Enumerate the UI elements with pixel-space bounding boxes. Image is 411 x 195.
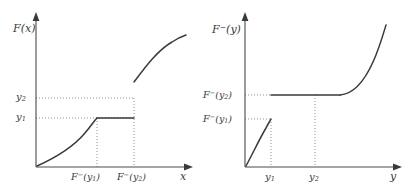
right-ytick-finv-y2-open: (y — [215, 89, 224, 100]
left-x-axis-title: x — [180, 170, 186, 183]
left-ytick-y2: y2 — [16, 91, 26, 102]
right-y-axis-title-base: F — [212, 23, 220, 36]
right-ytick-finv-y2-base: F — [203, 89, 210, 100]
right-plot-panel: F−(y) y F−(y2) F−(y1) y1 y2 — [200, 0, 411, 195]
left-y-axis-arrow-icon — [33, 12, 40, 21]
right-xtick-y1-sub: 1 — [271, 175, 275, 183]
left-curve-post-jump-branch — [134, 35, 186, 82]
left-xtick-finv-y2-close: ) — [142, 171, 146, 182]
left-ytick-y1-sub: 1 — [22, 115, 26, 123]
right-ytick-finv-y1-open: (y — [215, 113, 224, 124]
left-xtick-finv-y2-open: (y — [129, 171, 138, 182]
right-ytick-finv-y2-close: ) — [228, 89, 232, 100]
left-xtick-finv-y1-open: (y — [83, 171, 92, 182]
right-ytick-finv-y1: F−(y1) — [203, 113, 232, 124]
right-xtick-y1: y1 — [265, 171, 275, 182]
left-plot-panel: F(x) x y2 y1 F−(y1) F−(y2) — [0, 0, 206, 195]
figure-container: F(x) x y2 y1 F−(y1) F−(y2) F−(y) — [0, 0, 411, 195]
left-ytick-y2-sub: 2 — [22, 95, 26, 103]
right-ytick-finv-y2: F−(y2) — [203, 89, 232, 100]
right-curve-pre-jump-branch — [246, 119, 271, 166]
right-ytick-finv-y1-base: F — [203, 113, 210, 124]
right-y-axis-arrow-icon — [242, 12, 249, 21]
right-ytick-finv-y1-close: ) — [228, 113, 232, 124]
left-ytick-y1: y1 — [16, 111, 26, 122]
left-xtick-finv-y1: F−(y1) — [71, 171, 100, 182]
left-xtick-finv-y2-base: F — [117, 171, 124, 182]
right-curve-convex-branch — [340, 25, 386, 95]
left-curve-increasing-branch — [37, 118, 97, 166]
right-y-axis-title: F−(y) — [212, 23, 241, 36]
left-xtick-finv-y1-close: ) — [96, 171, 100, 182]
right-xtick-y2-sub: 2 — [315, 175, 319, 183]
left-xtick-finv-y1-base: F — [71, 171, 78, 182]
right-xtick-y2: y2 — [309, 171, 319, 182]
left-y-axis-title: F(x) — [13, 22, 35, 35]
right-y-axis-title-arg: (y) — [226, 23, 241, 36]
left-xtick-finv-y2: F−(y2) — [117, 171, 146, 182]
right-x-axis-title: y — [390, 170, 396, 183]
